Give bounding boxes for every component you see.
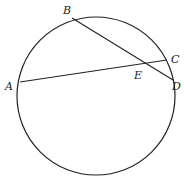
label-c: C <box>171 53 180 66</box>
caption: (BE)(ED) = (AE)(EC) <box>38 179 154 180</box>
label-d: D <box>171 80 181 93</box>
label-e: E <box>133 69 142 82</box>
label-b: B <box>62 4 71 17</box>
circle <box>17 17 175 175</box>
chord-diagram: B C A E D (BE)(ED) = (AE)(EC) <box>0 0 184 180</box>
label-a: A <box>4 80 13 93</box>
chord-bd <box>72 18 173 80</box>
